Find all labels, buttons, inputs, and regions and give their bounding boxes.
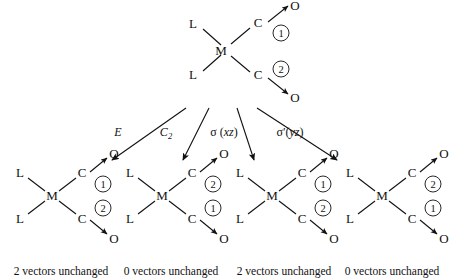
result-2-vector-bottom: 1 (210, 203, 215, 214)
parent-oxygen-bottom: O (290, 90, 299, 105)
result-2-carbon-top: C (188, 165, 197, 180)
co-vector-top (268, 6, 288, 22)
operation-subscript-C2: 2 (168, 131, 173, 141)
result-1-carbon-bottom: C (78, 211, 87, 226)
bond-m-c-bottom (231, 56, 250, 72)
bond-m-c-top (231, 28, 250, 44)
caption-result-1: 2 vectors unchanged (14, 265, 109, 278)
operation-label-sigma-xz: σ (xz) (210, 125, 237, 139)
result-1-metal: M (46, 188, 58, 203)
figure-canvas: M L L C C O O 1 2 E C2 σ (xz) σ′(yz) M L… (0, 0, 454, 280)
arrow-E (112, 108, 186, 160)
parent-vector-label-1: 1 (278, 28, 283, 39)
operation-symbol-E: E (113, 125, 122, 139)
result-2-carbon-bottom: C (188, 211, 197, 226)
result-4-ligand-top: L (346, 165, 354, 180)
result-3-vector-bottom: 2 (320, 203, 325, 214)
result-3-oxygen-top: O (329, 146, 338, 161)
result-4-vector-top: 2 (430, 179, 435, 190)
result-1-ligand-bottom: L (16, 211, 24, 226)
operation-plane-xz: xz (223, 125, 234, 139)
result-4-carbon-bottom: C (408, 211, 417, 226)
result-3-ligand-top: L (236, 165, 244, 180)
caption-result-4: 0 vectors unchanged (345, 265, 440, 278)
arrow-C2 (183, 108, 209, 160)
result-3-carbon-top: C (298, 165, 307, 180)
parent-metal-label: M (215, 43, 227, 58)
result-1-ligand-top: L (16, 165, 24, 180)
parent-ligand-bottom: L (189, 67, 197, 82)
result-2-oxygen-bottom: O (219, 231, 228, 246)
result-structure-3-skeleton (248, 158, 331, 234)
parent-vector-label-2: 2 (278, 64, 283, 75)
caption-result-2: 0 vectors unchanged (124, 265, 219, 278)
operation-label-C2: C2 (160, 125, 173, 141)
result-3-carbon-bottom: C (298, 211, 307, 226)
operation-label-E: E (113, 125, 122, 139)
result-4-carbon-top: C (408, 165, 417, 180)
result-1-carbon-top: C (78, 165, 87, 180)
result-2-ligand-top: L (126, 165, 134, 180)
result-1-vector-bottom: 2 (100, 203, 105, 214)
result-3-ligand-bottom: L (236, 211, 244, 226)
result-2-oxygen-top: O (219, 146, 228, 161)
result-4-oxygen-top: O (439, 146, 448, 161)
result-4-ligand-bottom: L (346, 211, 354, 226)
result-structure-4-skeleton (358, 158, 441, 234)
result-4-vector-bottom: 1 (430, 203, 435, 214)
result-2-vector-top: 2 (210, 179, 215, 190)
caption-result-3: 2 vectors unchanged (237, 265, 332, 278)
result-1-vector-top: 1 (100, 179, 105, 190)
parent-carbon-bottom: C (254, 67, 263, 82)
parent-ligand-top: L (189, 16, 197, 31)
result-2-metal: M (156, 188, 168, 203)
result-4-metal: M (376, 188, 388, 203)
result-3-oxygen-bottom: O (329, 231, 338, 246)
co-vector-bottom (268, 78, 288, 94)
operation-label-sigma-yz: σ′(yz) (276, 125, 303, 139)
result-4-oxygen-bottom: O (439, 231, 448, 246)
parent-carbon-top: C (254, 15, 263, 30)
result-3-metal: M (266, 188, 278, 203)
result-structure-2-skeleton (138, 158, 221, 234)
result-1-oxygen-top: O (109, 146, 118, 161)
operation-plane-yz: yz (289, 125, 300, 139)
result-structure-1-skeleton (28, 158, 111, 234)
arrow-sigma-xz (237, 108, 254, 160)
result-3-vector-top: 1 (320, 179, 325, 190)
parent-oxygen-top: O (290, 0, 299, 13)
symmetry-operation-figure: M L L C C O O 1 2 E C2 σ (xz) σ′(yz) M L… (0, 0, 454, 280)
result-2-ligand-bottom: L (126, 211, 134, 226)
result-1-oxygen-bottom: O (109, 231, 118, 246)
